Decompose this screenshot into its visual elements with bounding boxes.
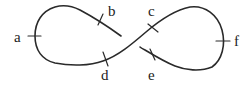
label-c: c (148, 4, 155, 19)
strand-b-to-crossing (35, 6, 224, 70)
tick-c (148, 24, 158, 32)
label-b: b (108, 4, 116, 19)
label-a: a (14, 30, 21, 45)
label-e: e (148, 68, 155, 83)
label-f: f (234, 34, 239, 49)
tick-e (150, 49, 155, 60)
curve-drawing (0, 0, 249, 88)
knot-diagram: a b c d e f (0, 0, 249, 88)
label-d: d (101, 68, 109, 83)
